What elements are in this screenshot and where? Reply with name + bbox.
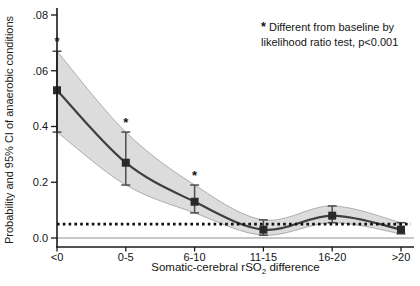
asterisk-symbol: * — [261, 20, 266, 34]
data-point-marker — [122, 159, 130, 167]
confidence-band — [57, 51, 401, 235]
data-point-marker — [191, 198, 199, 206]
x-axis-title-text: Somatic-cerebral rSO — [151, 261, 262, 273]
data-point-marker — [259, 226, 267, 234]
y-tick-label: .06 — [33, 65, 48, 77]
figure: Probability and 95% CI of anaerobic cond… — [0, 0, 420, 286]
significance-note: * Different from baseline by likelihood … — [261, 20, 398, 50]
x-axis-title: Somatic-cerebral rSO2 difference — [57, 261, 414, 276]
y-tick-label: 0.4 — [33, 120, 48, 132]
data-point-marker — [328, 212, 336, 220]
y-tick-label: 0.0 — [33, 232, 48, 244]
data-point-marker — [397, 226, 405, 234]
x-axis-title-suffix: difference — [266, 261, 320, 273]
annotation-text-line1: Different from baseline by — [269, 21, 394, 33]
significance-asterisk: * — [123, 115, 129, 130]
y-tick-label: .08 — [33, 9, 48, 21]
y-tick-label: 0.2 — [33, 176, 48, 188]
significance-asterisk: * — [192, 168, 198, 183]
annotation-text-line2: likelihood ratio test, p<0.001 — [261, 35, 398, 50]
annotation-line-1: * Different from baseline by — [261, 20, 398, 35]
